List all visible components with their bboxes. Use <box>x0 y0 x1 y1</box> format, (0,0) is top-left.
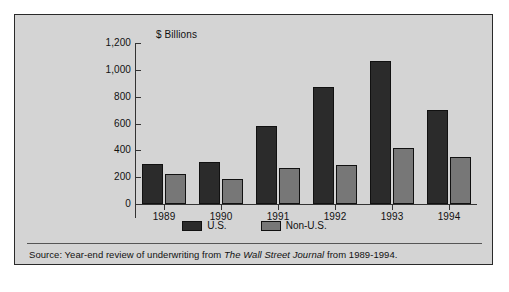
y-axis-tick-label: 400 <box>75 144 131 155</box>
x-axis-tick <box>392 205 393 210</box>
plot-area: $ Billions 02004006008001,0001,200 19891… <box>15 15 494 226</box>
x-axis-tick <box>278 205 279 210</box>
y-axis-tick-label: 1,200 <box>75 37 131 48</box>
x-axis-tick <box>449 205 450 210</box>
chart-legend: U.S.Non-U.S. <box>15 220 494 231</box>
bar-non-u-s--1990 <box>222 179 243 204</box>
source-note: Source: Year-end review of underwriting … <box>29 249 481 260</box>
chart-figure-frame: $ Billions 02004006008001,0001,200 19891… <box>14 14 493 265</box>
bar-u-s--1994 <box>427 110 448 204</box>
y-axis-tick <box>135 97 141 98</box>
y-axis-tick <box>135 124 141 125</box>
bar-non-u-s--1994 <box>450 157 471 204</box>
source-suffix: from 1989-1994. <box>324 249 397 260</box>
legend-item-non-u-s-: Non-U.S. <box>261 220 327 231</box>
bar-non-u-s--1993 <box>393 148 414 204</box>
source-publication: The Wall Street Journal <box>224 249 324 260</box>
legend-item-u-s-: U.S. <box>182 220 226 231</box>
bar-u-s--1991 <box>256 126 277 204</box>
bar-non-u-s--1992 <box>336 165 357 204</box>
source-divider <box>27 243 482 244</box>
y-axis-tick <box>135 204 141 205</box>
bar-non-u-s--1991 <box>279 168 300 204</box>
y-axis-tick-label: 200 <box>75 171 131 182</box>
source-prefix: Source: Year-end review of underwriting … <box>29 249 224 260</box>
y-axis-tick <box>135 177 141 178</box>
y-axis-tick-label: 1,000 <box>75 64 131 75</box>
legend-swatch <box>261 221 281 231</box>
y-axis-tick-label: 600 <box>75 118 131 129</box>
y-axis-tick-label: 0 <box>75 198 131 209</box>
legend-label: U.S. <box>207 220 226 231</box>
x-axis-tick <box>221 205 222 210</box>
bar-u-s--1993 <box>370 61 391 204</box>
y-axis-tick <box>135 150 141 151</box>
x-axis-line <box>135 204 477 205</box>
bar-u-s--1990 <box>199 162 220 204</box>
y-axis-tick <box>135 70 141 71</box>
bar-non-u-s--1989 <box>165 174 186 204</box>
x-axis-tick <box>164 205 165 210</box>
legend-swatch <box>182 221 202 231</box>
y-axis-tick-label: 800 <box>75 91 131 102</box>
y-axis-tick <box>135 43 141 44</box>
x-axis-tick <box>335 205 336 210</box>
bar-u-s--1992 <box>313 87 334 204</box>
bar-u-s--1989 <box>142 164 163 204</box>
legend-label: Non-U.S. <box>286 220 327 231</box>
